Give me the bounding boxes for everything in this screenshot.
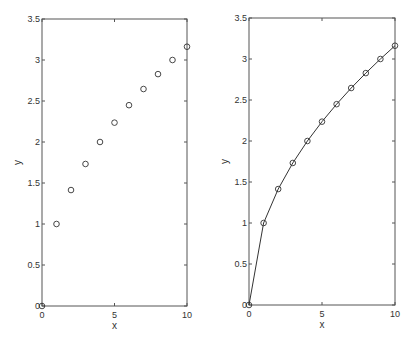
y-tick-label: 0.5 bbox=[27, 260, 40, 270]
x-tick-label: 5 bbox=[112, 310, 117, 320]
y-axis-label: y bbox=[219, 159, 230, 164]
y-tick-label: 2.5 bbox=[27, 96, 40, 106]
data-point-marker bbox=[54, 221, 60, 227]
data-point-marker bbox=[141, 86, 147, 92]
plot-2: 00.511.522.533.50510xy bbox=[219, 13, 400, 330]
data-point-marker bbox=[170, 57, 176, 63]
y-tick-label: 1 bbox=[242, 218, 247, 228]
y-tick-label: 3.5 bbox=[234, 13, 247, 23]
y-axis-label: y bbox=[12, 160, 23, 165]
x-tick-label: 10 bbox=[390, 309, 400, 319]
axes-box bbox=[249, 18, 395, 305]
chart-canvas: 00.511.522.533.50510xy00.511.522.533.505… bbox=[0, 0, 414, 344]
x-axis-label: x bbox=[112, 320, 117, 331]
y-tick-label: 2.5 bbox=[234, 95, 247, 105]
plot-1: 00.511.522.533.50510xy bbox=[12, 14, 192, 331]
y-tick-label: 3 bbox=[35, 55, 40, 65]
y-tick-label: 2 bbox=[242, 136, 247, 146]
data-point-marker bbox=[68, 187, 74, 193]
y-tick-label: 1 bbox=[35, 219, 40, 229]
data-point-marker bbox=[155, 71, 161, 77]
y-tick-label: 2 bbox=[35, 137, 40, 147]
x-axis-label: x bbox=[320, 319, 325, 330]
data-line bbox=[249, 46, 395, 305]
x-tick-label: 0 bbox=[246, 309, 251, 319]
axes-box bbox=[42, 19, 187, 306]
data-point-marker bbox=[112, 120, 118, 126]
data-point-marker bbox=[83, 161, 89, 167]
y-tick-label: 1.5 bbox=[234, 177, 247, 187]
y-tick-label: 0.5 bbox=[234, 259, 247, 269]
data-point-marker bbox=[126, 102, 132, 108]
y-tick-label: 3 bbox=[242, 54, 247, 64]
x-tick-label: 0 bbox=[39, 310, 44, 320]
y-tick-label: 1.5 bbox=[27, 178, 40, 188]
y-tick-label: 3.5 bbox=[27, 14, 40, 24]
x-tick-label: 5 bbox=[319, 309, 324, 319]
x-tick-label: 10 bbox=[182, 310, 192, 320]
data-point-marker bbox=[97, 139, 103, 145]
